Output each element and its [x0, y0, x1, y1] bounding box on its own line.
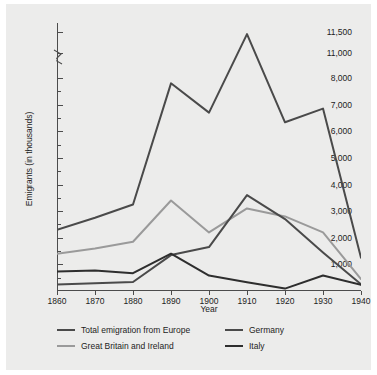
- x-tick: [209, 291, 210, 295]
- y-axis-title: Emigrants (in thousands): [24, 89, 34, 229]
- chart-legend: Total emigration from EuropeGermanyGreat…: [57, 322, 367, 354]
- legend-item[interactable]: Italy: [225, 341, 367, 351]
- legend-label: Great Britain and Ireland: [81, 341, 174, 351]
- x-tick: [133, 291, 134, 295]
- legend-swatch: [225, 329, 243, 332]
- legend-item[interactable]: Germany: [225, 325, 367, 335]
- chart-figure: 11,50011,0008,0007,0006,0005,0004,0003,0…: [6, 4, 371, 370]
- x-tick: [171, 291, 172, 295]
- legend-item[interactable]: Total emigration from Europe: [57, 325, 225, 335]
- series-lines: [57, 23, 361, 291]
- legend-swatch: [57, 329, 75, 332]
- legend-label: Germany: [249, 325, 284, 335]
- x-tick: [285, 291, 286, 295]
- series-line: [57, 200, 361, 279]
- series-line: [57, 34, 361, 258]
- x-tick: [361, 291, 362, 295]
- legend-swatch: [57, 345, 75, 348]
- plot-area: 11,50011,0008,0007,0006,0005,0004,0003,0…: [57, 23, 361, 291]
- x-tick: [323, 291, 324, 295]
- legend-label: Italy: [249, 341, 265, 351]
- x-tick: [95, 291, 96, 295]
- legend-swatch: [225, 345, 243, 348]
- x-axis-title: Year: [57, 304, 361, 314]
- x-tick: [57, 291, 58, 295]
- x-tick: [247, 291, 248, 295]
- legend-item[interactable]: Great Britain and Ireland: [57, 341, 225, 351]
- legend-label: Total emigration from Europe: [81, 325, 190, 335]
